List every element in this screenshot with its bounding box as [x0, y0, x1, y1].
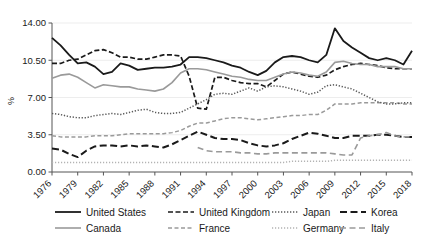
legend-label: Japan: [303, 207, 330, 218]
x-tick-label: 1979: [56, 178, 79, 201]
y-axis-ticks: 0.003.507.0010.5014.00: [22, 17, 52, 177]
x-tick-label: 1994: [185, 178, 208, 201]
x-tick-label: 2012: [339, 178, 362, 201]
y-tick-label: 0.00: [28, 166, 47, 177]
x-tick-label: 1982: [82, 178, 105, 201]
legend-label: Korea: [371, 207, 398, 218]
legend-item[interactable]: Korea: [340, 207, 398, 218]
x-tick-label: 1985: [108, 178, 131, 201]
legend-item[interactable]: United States: [55, 207, 146, 218]
legend-item[interactable]: Germany: [272, 223, 344, 234]
series-line-united-kingdom: [52, 50, 412, 110]
x-tick-label: 1988: [134, 178, 157, 201]
legend-label: United Kingdom: [199, 207, 270, 218]
x-tick-label: 2003: [262, 178, 285, 201]
y-tick-label: 10.50: [22, 55, 46, 66]
chart-figure: 0.003.507.0010.5014.00%19761979198219851…: [0, 0, 421, 242]
x-tick-label: 2018: [391, 178, 414, 201]
legend-item[interactable]: Canada: [55, 223, 121, 234]
series-line-united-states: [52, 28, 412, 75]
series-line-japan: [52, 85, 412, 118]
x-tick-label: 1991: [159, 178, 182, 201]
legend-item[interactable]: United Kingdom: [168, 207, 270, 218]
y-tick-label: 7.00: [28, 92, 47, 103]
legend-label: United States: [86, 207, 146, 218]
x-tick-label: 1997: [211, 178, 234, 201]
legend-label: Italy: [371, 223, 389, 234]
y-tick-label: 3.50: [28, 129, 47, 140]
x-tick-label: 1976: [31, 178, 54, 201]
series-group: [52, 28, 412, 162]
legend: United StatesUnited KingdomJapanKoreaCan…: [55, 207, 398, 234]
series-line-italy: [198, 133, 412, 155]
series-line-france: [52, 103, 412, 137]
series-line-germany: [52, 160, 412, 162]
x-tick-label: 2000: [236, 178, 259, 201]
legend-item[interactable]: France: [168, 223, 231, 234]
x-tick-label: 2009: [314, 178, 337, 201]
legend-label: France: [199, 223, 231, 234]
legend-label: Germany: [303, 223, 344, 234]
x-axis-ticks: 1976197919821985198819911994199720002003…: [31, 172, 414, 200]
legend-item[interactable]: Italy: [340, 223, 389, 234]
legend-label: Canada: [86, 223, 121, 234]
line-chart: 0.003.507.0010.5014.00%19761979198219851…: [0, 0, 421, 242]
x-tick-label: 2006: [288, 178, 311, 201]
legend-item[interactable]: Japan: [272, 207, 330, 218]
y-axis-title: %: [6, 97, 16, 105]
y-tick-label: 14.00: [22, 17, 46, 28]
x-tick-label: 2015: [365, 178, 388, 201]
